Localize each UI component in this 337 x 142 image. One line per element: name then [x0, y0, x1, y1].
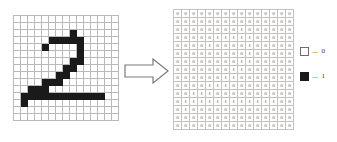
matrix-cell: 0 — [214, 10, 222, 18]
matrix-cell: 0 — [174, 58, 182, 66]
pixel-cell — [105, 44, 112, 51]
pixel-cell — [28, 51, 35, 58]
pixel-cell — [77, 72, 84, 79]
matrix-cell: 0 — [206, 26, 214, 34]
pixel-cell — [28, 65, 35, 72]
pixel-cell — [84, 72, 91, 79]
matrix-cell: 0 — [278, 34, 286, 42]
pixel-cell — [21, 23, 28, 30]
matrix-cell: 0 — [190, 114, 198, 122]
pixel-cell — [70, 16, 77, 23]
matrix-cell: 0 — [174, 74, 182, 82]
matrix-cell: 0 — [270, 66, 278, 74]
pixel-cell — [84, 107, 91, 114]
pixel-cell — [91, 72, 98, 79]
pixel-cell — [112, 16, 119, 23]
matrix-cell: 0 — [182, 58, 190, 66]
pixel-row — [14, 72, 119, 79]
pixel-cell — [28, 114, 35, 121]
pixel-cell — [77, 93, 84, 100]
matrix-cell: 0 — [254, 106, 262, 114]
pixel-cell — [84, 37, 91, 44]
matrix-cell: 0 — [286, 10, 294, 18]
pixel-cell — [49, 30, 56, 37]
matrix-cell: 0 — [262, 114, 270, 122]
matrix-cell: 0 — [278, 122, 286, 130]
pixel-cell — [21, 107, 28, 114]
matrix-cell: 0 — [278, 42, 286, 50]
pixel-cell — [56, 23, 63, 30]
matrix-cell: 0 — [174, 106, 182, 114]
matrix-cell: 0 — [190, 26, 198, 34]
pixel-cell — [112, 114, 119, 121]
pixel-cell — [63, 107, 70, 114]
matrix-cell: 0 — [270, 18, 278, 26]
matrix-cell: 0 — [214, 42, 222, 50]
pixel-cell — [105, 93, 112, 100]
pixel-cell — [98, 44, 105, 51]
matrix-cell: 0 — [222, 90, 230, 98]
matrix-cell: 1 — [190, 90, 198, 98]
pixel-cell — [42, 107, 49, 114]
matrix-cell: 0 — [246, 74, 254, 82]
matrix-cell: 0 — [198, 34, 206, 42]
pixel-cell — [77, 37, 84, 44]
matrix-cell: 0 — [206, 10, 214, 18]
matrix-cell: 0 — [278, 74, 286, 82]
pixel-cell — [98, 30, 105, 37]
matrix-cell: 0 — [286, 18, 294, 26]
pixel-cell — [91, 86, 98, 93]
pixel-cell — [14, 86, 21, 93]
matrix-row: 000000000000000 — [174, 18, 294, 26]
matrix-cell: 1 — [238, 58, 246, 66]
matrix-cell: 0 — [222, 26, 230, 34]
pixel-cell — [14, 23, 21, 30]
matrix-cell: 0 — [246, 66, 254, 74]
matrix-cell: 0 — [190, 34, 198, 42]
pixel-cell — [105, 58, 112, 65]
pixel-cell — [84, 16, 91, 23]
matrix-cell: 0 — [238, 74, 246, 82]
matrix-cell: 1 — [246, 50, 254, 58]
pixel-cell — [112, 44, 119, 51]
pixel-row — [14, 65, 119, 72]
matrix-cell: 0 — [254, 66, 262, 74]
legend-dots-one: ⋯ — [312, 73, 319, 80]
pixel-cell — [84, 23, 91, 30]
matrix-cell: 1 — [246, 34, 254, 42]
matrix-cell: 0 — [238, 42, 246, 50]
matrix-cell: 0 — [262, 26, 270, 34]
matrix-cell: 0 — [174, 66, 182, 74]
pixel-cell — [42, 44, 49, 51]
matrix-cell: 1 — [190, 98, 198, 106]
matrix-cell: 0 — [278, 26, 286, 34]
matrix-cell: 0 — [254, 58, 262, 66]
matrix-row: 000000110000000 — [174, 74, 294, 82]
matrix-cell: 0 — [182, 50, 190, 58]
pixel-cell — [35, 100, 42, 107]
pixel-cell — [21, 51, 28, 58]
pixel-cell — [63, 44, 70, 51]
pixel-row — [14, 23, 119, 30]
pixel-row — [14, 114, 119, 121]
matrix-cell: 0 — [206, 66, 214, 74]
matrix-cell: 0 — [198, 74, 206, 82]
matrix-cell: 0 — [214, 90, 222, 98]
pixel-cell — [112, 86, 119, 93]
pixel-cell — [14, 72, 21, 79]
matrix-row: 000000000000000 — [174, 114, 294, 122]
pixel-cell — [98, 100, 105, 107]
matrix-cell: 1 — [206, 90, 214, 98]
pixel-cell — [35, 51, 42, 58]
matrix-cell: 0 — [222, 122, 230, 130]
matrix-cell: 0 — [198, 114, 206, 122]
pixel-cell — [42, 65, 49, 72]
pixel-cell — [21, 79, 28, 86]
matrix-cell: 0 — [286, 90, 294, 98]
pixel-cell — [63, 86, 70, 93]
matrix-row: 000000000100000 — [174, 50, 294, 58]
pixel-cell — [112, 23, 119, 30]
matrix-cell: 0 — [214, 122, 222, 130]
matrix-cell: 0 — [190, 74, 198, 82]
pixel-grid-panel — [13, 15, 119, 121]
